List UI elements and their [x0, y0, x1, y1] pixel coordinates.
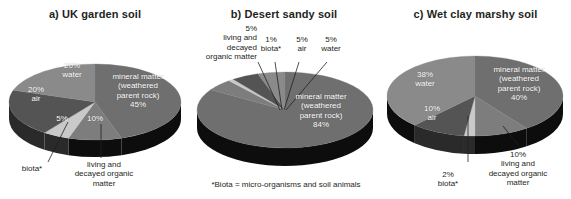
- callout-label-water-b: 5%water: [314, 35, 348, 54]
- pie-svg-b: [196, 68, 374, 162]
- pie-svg-c: [385, 50, 567, 154]
- callout-label-organic-a: living anddecayed organicmatter: [62, 160, 146, 188]
- page-title-c: c) Wet clay marshy soil: [380, 8, 571, 20]
- callout-label-air-b: 5%air: [289, 35, 315, 54]
- footnote-biota: *Biota = micro-organisms and soil animal…: [182, 180, 390, 189]
- callout-label-organic-b: 5%living anddecayedorganic matter: [185, 24, 257, 62]
- pie-svg-a: [6, 58, 184, 158]
- callout-label-biota-c: 2%biota*: [426, 170, 470, 189]
- callout-label-biota-a: biota*: [6, 164, 58, 173]
- callout-label-biota-b: 1%biota*: [254, 35, 288, 54]
- pie-chart-desert-sandy-soil: [196, 68, 374, 162]
- chart-panel-uk-garden-soil: a) UK garden soil mineral matter(weather…: [0, 0, 190, 199]
- chart-panel-desert-sandy-soil: b) Desert sandy soil mineral matter(weat…: [186, 0, 382, 199]
- pie-chart-uk-garden-soil: [6, 58, 184, 158]
- page-title-a: a) UK garden soil: [0, 8, 190, 20]
- page-title-b: b) Desert sandy soil: [186, 8, 382, 20]
- pie-chart-wet-clay-marshy-soil: [385, 50, 567, 154]
- chart-panel-wet-clay-marshy-soil: c) Wet clay marshy soil mineral matter(w…: [380, 0, 571, 199]
- callout-label-organic-c: 10%living anddecayed organicmatter: [476, 150, 560, 188]
